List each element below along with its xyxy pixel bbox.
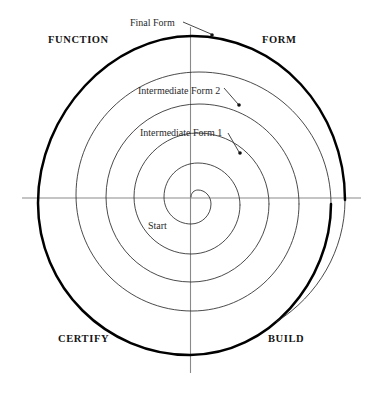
spiral-turn-1 xyxy=(164,163,240,224)
quadrant-label-function: FUNCTION xyxy=(48,34,109,45)
quadrant-label-certify: CERTIFY xyxy=(58,333,109,344)
spiral-diagram: FUNCTION FORM CERTIFY BUILD Final Form I… xyxy=(0,0,382,394)
quadrant-label-build: BUILD xyxy=(268,333,304,344)
intermediate-form-2-dot xyxy=(237,103,241,107)
callout-label-intermediate-form-2: Intermediate Form 2 xyxy=(138,85,220,96)
final-form-dot xyxy=(210,33,214,37)
intermediate-form-1-dot xyxy=(238,151,242,155)
spiral-tail-segment xyxy=(276,200,345,322)
axes-group xyxy=(22,27,361,373)
intermediate-form-1-leader xyxy=(228,133,239,152)
final-form-leader xyxy=(183,22,211,34)
quadrant-label-form: FORM xyxy=(262,34,296,45)
spiral-outer-tail xyxy=(276,200,345,322)
callout-label-start: Start xyxy=(148,220,167,231)
callout-label-intermediate-form-1: Intermediate Form 1 xyxy=(140,127,222,138)
callout-label-final-form: Final Form xyxy=(130,17,175,28)
spiral-inner-turns xyxy=(76,72,331,311)
intermediate-form-2-leader xyxy=(224,88,238,104)
spiral-turn-2 xyxy=(134,133,269,254)
